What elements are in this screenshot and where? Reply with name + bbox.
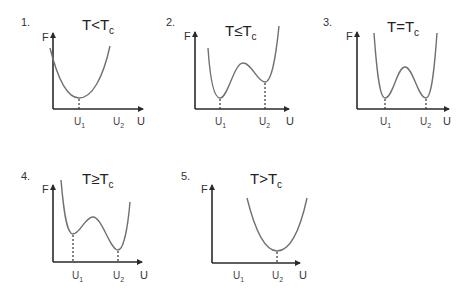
- x-axis-label: U: [443, 115, 451, 127]
- panel-3: 3. T=Tc F U1 U2 U: [323, 16, 451, 129]
- panel-5: 5. T>Tc F U1 U2 U: [181, 170, 307, 283]
- x-axis-label: U: [137, 115, 145, 127]
- u2-label: U2: [113, 116, 124, 129]
- x-axis-label: U: [299, 269, 307, 281]
- panel-4: 4. T≥Tc F U1 U2 U: [21, 170, 148, 283]
- u1-label: U1: [380, 116, 391, 129]
- panel-number: 2.: [166, 16, 175, 28]
- x-axis-label: U: [286, 115, 294, 127]
- free-energy-curve: [247, 198, 307, 251]
- panel-number: 3.: [323, 16, 332, 28]
- panel-title: T=Tc: [387, 18, 419, 38]
- u2-label: U2: [420, 116, 431, 129]
- u2-label: U2: [113, 270, 124, 283]
- panel-number: 4.: [21, 170, 30, 182]
- u1-label: U1: [74, 116, 85, 129]
- panel-title: T<Tc: [82, 16, 114, 36]
- y-axis-label: F: [346, 30, 353, 42]
- panel-title: T≤Tc: [225, 22, 257, 42]
- phase-transition-diagram: 1. T<Tc F U1 U2 U 2. T≤Tc F U1 U2 U 3. T…: [0, 0, 470, 302]
- y-axis-label: F: [201, 183, 208, 195]
- free-energy-curve: [61, 180, 130, 250]
- panel-number: 1.: [21, 16, 30, 28]
- panel-number: 5.: [181, 170, 190, 182]
- free-energy-curve: [374, 33, 437, 98]
- y-axis-label: F: [42, 31, 49, 43]
- panel-title: T≥Tc: [82, 170, 114, 190]
- x-axis-label: U: [140, 269, 148, 281]
- u2-label: U2: [259, 116, 270, 129]
- y-axis-label: F: [42, 183, 49, 195]
- panel-1: 1. T<Tc F U1 U2 U: [21, 16, 145, 129]
- u1-label: U1: [215, 116, 226, 129]
- u1-label: U1: [233, 270, 244, 283]
- u2-label: U2: [272, 270, 283, 283]
- panel-2: 2. T≤Tc F U1 U2 U: [166, 16, 294, 129]
- y-axis-label: F: [184, 30, 191, 42]
- panel-title: T>Tc: [250, 170, 282, 190]
- free-energy-curve: [50, 46, 110, 98]
- u1-label: U1: [72, 270, 83, 283]
